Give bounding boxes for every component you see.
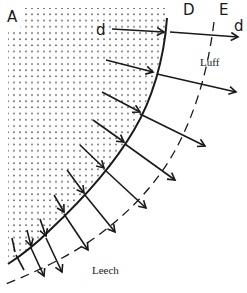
label-e: E [219,1,228,19]
arrow-out-9 [31,248,44,276]
label-d-right: d [234,17,244,35]
label-d-top: D [183,1,195,19]
sail-diagram: A D E d d Luff Leech [0,0,247,293]
label-leech: Leech [92,264,119,276]
stippled-region [8,8,166,262]
arrow-out-5 [105,170,146,208]
arrow-out-3 [140,114,205,146]
arrow-out-4 [125,144,175,180]
arrow-out-10 [16,255,24,270]
arrow-out-1 [170,32,238,37]
arrow-out-6 [85,195,115,232]
label-luff: Luff [200,56,220,68]
arrow-out-2 [157,74,236,92]
arrow-out-7 [64,214,88,250]
label-a: A [7,8,18,26]
arrow-out-8 [46,238,62,272]
label-d-left: d [96,21,106,39]
